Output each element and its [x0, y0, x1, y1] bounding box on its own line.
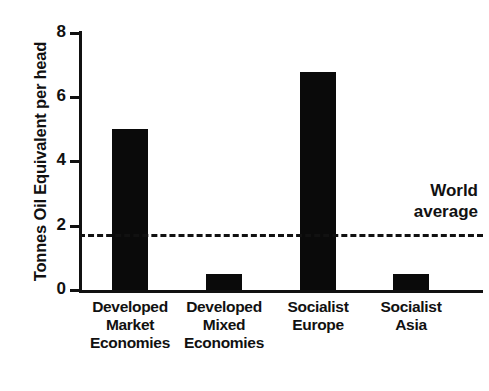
- cat-3-line-2: Asia: [351, 316, 471, 334]
- cat-1-line-3: Economies: [164, 334, 284, 352]
- bar-socialist-europe: [300, 72, 336, 290]
- y-tick-label-6: 6: [40, 86, 66, 106]
- x-category-label-socialist-asia: Socialist Asia: [351, 298, 471, 334]
- cat-3-line-1: Socialist: [351, 298, 471, 316]
- bar-socialist-asia: [393, 274, 429, 290]
- bar-developed-market-economies: [112, 129, 148, 290]
- x-axis-line: [79, 290, 483, 293]
- y-tick-mark-8: [70, 32, 80, 35]
- bar-chart: Tonnes Oil Equivalent per head 8 6 4 2 0…: [0, 0, 489, 391]
- world-average-label-line1: World: [352, 180, 478, 201]
- world-average-label-line2: average: [352, 201, 478, 222]
- y-tick-mark-2: [70, 225, 80, 228]
- world-average-line: [79, 234, 483, 237]
- bar-developed-mixed-economies: [206, 274, 242, 290]
- world-average-label: World average: [352, 180, 478, 223]
- y-tick-mark-0: [70, 289, 80, 292]
- y-tick-label-8: 8: [40, 22, 66, 42]
- y-tick-mark-6: [70, 96, 80, 99]
- y-tick-mark-4: [70, 160, 80, 163]
- y-tick-label-0: 0: [40, 279, 66, 299]
- y-tick-label-4: 4: [40, 150, 66, 170]
- y-tick-label-2: 2: [40, 215, 66, 235]
